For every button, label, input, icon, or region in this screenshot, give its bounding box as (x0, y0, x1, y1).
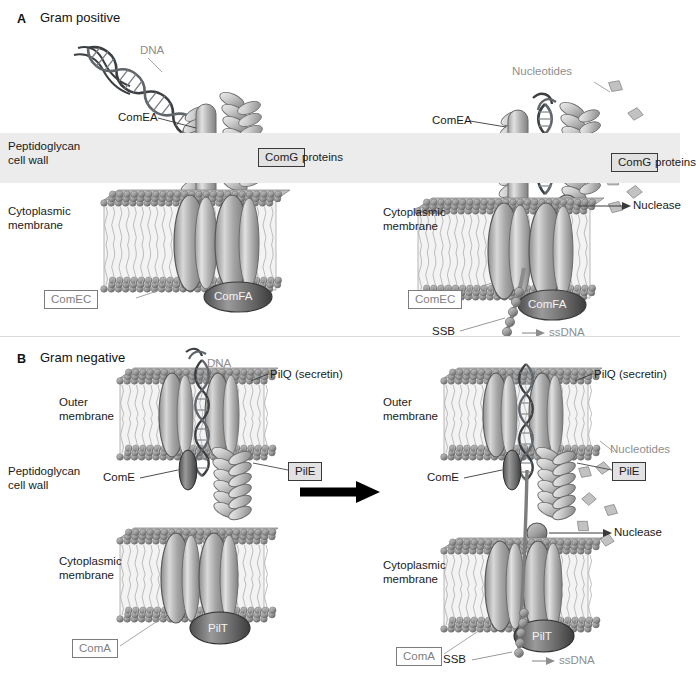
label-comec-a-left: ComEC (44, 290, 98, 309)
com-e-protein-icon (179, 450, 197, 490)
pilus-fiber-icon (210, 444, 253, 522)
leader-line-icon (464, 470, 502, 478)
label-cytoplasmic-b-right-line2: membrane (383, 573, 438, 586)
leader-line-icon (472, 652, 512, 660)
label-pile-b-right: PilE (612, 462, 646, 481)
panel-a-letter: A (17, 12, 26, 26)
label-outer-b-left-line1: Outer (59, 396, 88, 409)
label-cytoplasmic-b-left-line1: Cytoplasmic (59, 555, 122, 568)
label-comfa-a-right: ComFA (528, 298, 566, 311)
leader-line-icon (594, 82, 610, 92)
leader-line-icon (140, 470, 178, 478)
label-outer-b-right-line1: Outer (383, 396, 412, 409)
label-peptidoglycan-a-left-line1: Peptidoglycan (8, 140, 80, 153)
label-pilq-b-left: PilQ (secretin) (270, 368, 343, 381)
label-cytoplasmic-b-right-line1: Cytoplasmic (383, 559, 446, 572)
label-nucleotides-a-right: Nucleotides (512, 65, 572, 78)
leader-line-icon (470, 121, 506, 127)
label-cytoplasmic-a-left-line1: Cytoplasmic (8, 205, 71, 218)
label-comea-a-left: ComEA (118, 111, 158, 124)
label-ssdna-b-right: ssDNA (559, 654, 595, 667)
leader-line-icon (253, 463, 288, 470)
label-outer-b-right-line2: membrane (383, 410, 438, 423)
label-cytoplasmic-a-right-line1: Cytoplasmic (383, 206, 446, 219)
label-come-b-right: ComE (427, 471, 459, 484)
label-peptidoglycan-b-left-line1: Peptidoglycan (8, 465, 80, 478)
label-dna-b-left: DNA (207, 357, 231, 370)
dna-helix-icon (186, 349, 206, 359)
label-comg-suffix-a-left: proteins (302, 151, 343, 164)
label-ssb-b-right: SSB (443, 653, 466, 666)
label-come-b-left: ComE (103, 471, 135, 484)
label-cytoplasmic-a-right-line2: membrane (383, 220, 438, 233)
label-comg-a-left: ComG (258, 148, 305, 167)
label-cytoplasmic-a-left-line2: membrane (8, 219, 63, 232)
panel-b-title: Gram negative (40, 351, 125, 366)
label-comg-a-right: ComG (611, 153, 658, 172)
label-ssdna-a-right: ssDNA (549, 326, 585, 339)
label-pile-b-left: PilE (288, 462, 322, 481)
label-peptidoglycan-a-left-line2: cell wall (8, 154, 48, 167)
leader-line-icon (532, 657, 555, 665)
label-comg-suffix-a-right: proteins (655, 156, 696, 169)
label-pilq-b-right: PilQ (secretin) (594, 368, 667, 381)
label-comfa-a-left: ComFA (214, 290, 252, 303)
label-nuclease-a-right: Nuclease (633, 199, 681, 212)
label-cytoplasmic-b-left-line2: membrane (59, 569, 114, 582)
label-coma-b-left: ComA (72, 639, 118, 658)
label-dna-a-left: DNA (140, 44, 164, 57)
label-ssb-a-right: SSB (432, 325, 455, 338)
panel-b-right-artwork (441, 364, 630, 665)
panel-a-title: Gram positive (40, 11, 120, 26)
panel-b-letter: B (17, 352, 26, 366)
label-pilt-b-left: PilT (208, 622, 228, 635)
com-e-protein-icon (503, 450, 521, 490)
label-pilt-b-right: PilT (532, 630, 552, 643)
label-nucleotides-b-right: Nucleotides (610, 443, 670, 456)
label-nuclease-b-right: Nuclease (614, 526, 662, 539)
leader-line-icon (460, 318, 505, 331)
label-outer-b-left-line2: membrane (59, 410, 114, 423)
label-coma-b-right: ComA (396, 647, 442, 666)
label-comea-a-right: ComEA (432, 114, 472, 127)
label-peptidoglycan-b-left-line2: cell wall (8, 479, 48, 492)
label-comec-a-right: ComEC (408, 290, 462, 309)
panel-b-left-artwork (117, 349, 288, 646)
pilus-fiber-icon (534, 444, 577, 522)
right-arrow-icon-b (300, 481, 380, 503)
